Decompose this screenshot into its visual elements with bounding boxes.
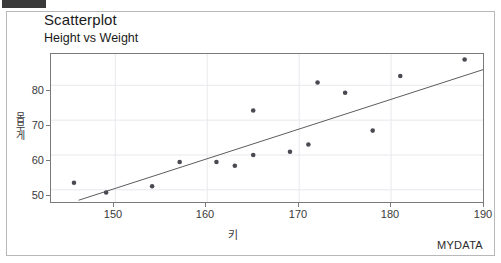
x-tick-mark-190	[483, 203, 484, 207]
data-point	[462, 57, 467, 62]
gridlines-group	[51, 54, 483, 202]
dataset-footnote: MYDATA	[437, 239, 483, 251]
x-tick-label-150: 150	[93, 208, 133, 220]
x-axis-label: 키	[0, 226, 501, 242]
data-point	[370, 128, 375, 133]
x-tick-mark-170	[298, 203, 299, 207]
page-title: Scatterplot	[44, 11, 117, 28]
data-point	[288, 150, 293, 155]
regression-line-group	[79, 70, 483, 201]
x-tick-label-180: 180	[370, 208, 410, 220]
y-tick-label-60: 60	[22, 154, 44, 166]
data-point	[177, 160, 182, 165]
plot-canvas	[51, 54, 483, 202]
titlebar-stub	[2, 0, 46, 8]
data-point	[306, 142, 311, 147]
data-point	[72, 181, 77, 186]
data-point	[315, 80, 320, 85]
page-subtitle: Height vs Weight	[44, 31, 138, 45]
scatterplot-screen: Scatterplot Height vs Weight 80 70 60 50…	[0, 0, 501, 263]
x-tick-label-170: 170	[278, 208, 318, 220]
x-tick-label-160: 160	[185, 208, 225, 220]
data-points-group	[72, 57, 467, 195]
regression-line	[79, 70, 483, 201]
data-point	[343, 90, 348, 95]
y-axis-label: 몸무게	[14, 112, 24, 139]
x-tick-mark-180	[390, 203, 391, 207]
x-tick-mark-150	[113, 203, 114, 207]
data-point	[214, 160, 219, 165]
y-tick-label-50: 50	[22, 189, 44, 201]
plot-area	[50, 53, 484, 203]
y-tick-label-80: 80	[22, 84, 44, 96]
data-point	[104, 190, 109, 195]
x-tick-mark-160	[205, 203, 206, 207]
x-tick-label-190: 190	[463, 208, 501, 220]
data-point	[150, 184, 155, 189]
y-tick-label-70: 70	[22, 119, 44, 131]
data-point	[251, 108, 256, 113]
data-point	[233, 164, 238, 169]
data-point	[251, 153, 256, 158]
x-axis-label-text: 키	[228, 226, 238, 242]
data-point	[398, 74, 403, 79]
